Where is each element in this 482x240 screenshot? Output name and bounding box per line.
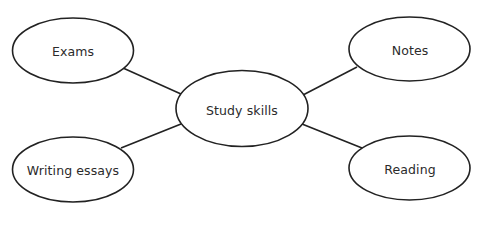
label-exams: Exams (52, 44, 94, 59)
connector-reading (302, 124, 362, 148)
label-reading: Reading (384, 162, 435, 177)
connector-exams (123, 68, 181, 94)
connector-writing-essays (121, 124, 181, 148)
label-notes: Notes (392, 43, 429, 58)
label-writing-essays: Writing essays (27, 163, 119, 178)
label-study-skills: Study skills (206, 103, 278, 118)
connector-notes (303, 67, 357, 95)
